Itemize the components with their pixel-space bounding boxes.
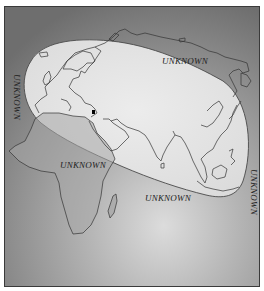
- unknown-label-north: UNKNOWN: [162, 56, 208, 66]
- unknown-label-east: UNKNOWN: [249, 169, 259, 215]
- unknown-label-west: UNKNOWN: [12, 74, 22, 120]
- unknown-label-africa: UNKNOWN: [60, 160, 106, 170]
- unknown-label-indian-ocean: UNKNOWN: [145, 193, 191, 203]
- location-marker: [92, 110, 95, 114]
- map-frame: UNKNOWN UNKNOWN UNKNOWN UNKNOWN UNKNOWN: [4, 6, 260, 287]
- map-canvas: [5, 7, 260, 287]
